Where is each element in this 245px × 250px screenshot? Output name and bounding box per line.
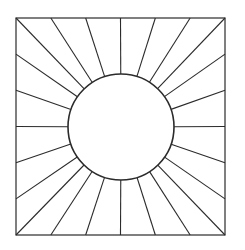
ray-line [164,54,225,96]
ray-line [165,157,225,199]
ray-line [149,18,190,82]
ray-line [150,172,191,235]
sunburst-diagram [0,0,245,250]
ray-line [137,18,155,76]
ray-line [51,18,92,82]
ray-line [171,90,225,109]
ray-line [51,171,92,235]
ray-line [16,90,71,109]
center-circle [68,74,174,180]
ray-line [137,178,155,235]
ray-line [16,157,77,199]
ray-line [171,144,225,162]
ray-line [16,54,77,97]
ray-line [86,18,105,77]
ray-line [16,144,71,163]
ray-line [86,177,105,235]
